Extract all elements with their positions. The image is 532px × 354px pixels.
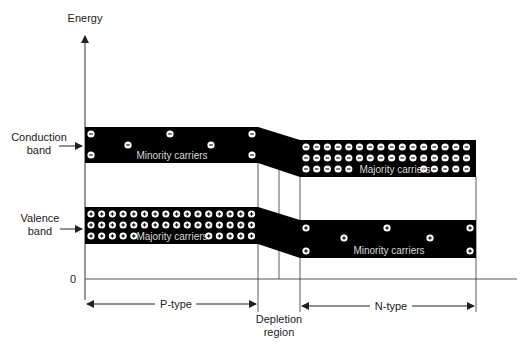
n-type-label: N-type — [375, 300, 407, 312]
n-valence-text: Minority carriers — [353, 245, 424, 256]
pn-junction-band-diagram: Energy 0 Conduction band Valence band Mi… — [0, 0, 532, 354]
conduction-band-label-line1: Conduction — [11, 131, 67, 143]
conduction-band-label-line2: band — [27, 144, 51, 156]
depletion-label-line2: region — [264, 326, 295, 338]
p-type-label: P-type — [160, 298, 192, 310]
p-conduction-text: Minority carriers — [136, 150, 207, 161]
n-conduction-text: Majority carriers — [359, 164, 430, 175]
p-valence-text: Majority carriers — [136, 231, 207, 242]
valence-band-label-line1: Valence — [21, 212, 60, 224]
depletion-label-line1: Depletion — [256, 313, 302, 325]
zero-label: 0 — [70, 273, 76, 285]
valence-band-label-line2: band — [28, 225, 52, 237]
energy-axis-label: Energy — [68, 12, 103, 24]
